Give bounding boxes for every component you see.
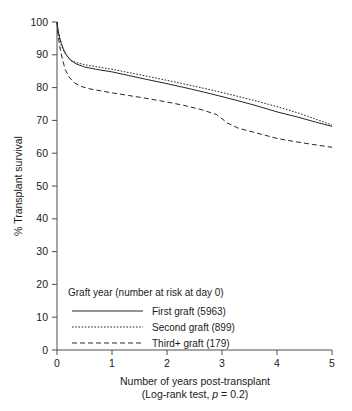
y-tick-label-10: 10	[36, 311, 48, 323]
x-tick-label-2: 2	[164, 357, 170, 369]
y-tick-label-60: 60	[36, 147, 48, 159]
logrank-prefix: (Log-rank test,	[142, 388, 213, 400]
x-axis-title: Number of years post-transplant	[120, 375, 270, 387]
y-axis-title: % Transplant survival	[12, 136, 24, 236]
y-tick-label-100: 100	[30, 16, 48, 28]
x-tick-label-3: 3	[219, 357, 225, 369]
y-tick-label-70: 70	[36, 114, 48, 126]
curve-first-graft	[57, 22, 332, 126]
survival-chart-figure: 0 10 20 30 40 50 60 70 80 90 100 % Trans…	[0, 0, 352, 411]
y-tick-label-0: 0	[42, 344, 48, 356]
y-tick-label-50: 50	[36, 180, 48, 192]
curve-second-graft	[57, 22, 332, 125]
y-tick-label-40: 40	[36, 212, 48, 224]
legend-title: Graft year (number at risk at day 0)	[68, 287, 224, 298]
y-axis-ticks	[52, 22, 57, 350]
x-tick-label-5: 5	[329, 357, 335, 369]
logrank-annotation: (Log-rank test, p = 0.2)	[142, 388, 249, 400]
y-tick-label-30: 30	[36, 245, 48, 257]
y-axis: 0 10 20 30 40 50 60 70 80 90 100 % Trans…	[12, 16, 57, 356]
x-tick-label-4: 4	[274, 357, 280, 369]
plot-canvas: 0 10 20 30 40 50 60 70 80 90 100 % Trans…	[0, 0, 352, 411]
x-axis-ticks	[57, 350, 332, 355]
logrank-suffix: = 0.2)	[218, 388, 248, 400]
series-curves	[57, 22, 332, 147]
y-tick-label-80: 80	[36, 81, 48, 93]
x-tick-label-0: 0	[54, 357, 60, 369]
legend-label-third-plus-graft: Third+ graft (179)	[152, 338, 230, 349]
x-axis: 0 1 2 3 4 5 Number of years post-transpl…	[54, 350, 335, 400]
y-tick-label-20: 20	[36, 278, 48, 290]
legend-label-second-graft: Second graft (899)	[152, 322, 235, 333]
curve-third-plus-graft	[57, 22, 332, 147]
x-tick-label-1: 1	[109, 357, 115, 369]
legend-label-first-graft: First graft (5963)	[152, 306, 226, 317]
legend: Graft year (number at risk at day 0) Fir…	[68, 287, 235, 349]
y-tick-label-90: 90	[36, 48, 48, 60]
